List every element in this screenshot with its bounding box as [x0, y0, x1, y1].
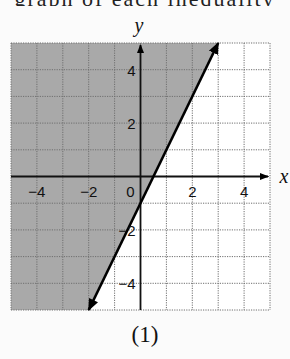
x-tick-label: −4	[28, 183, 45, 200]
x-tick-label: 2	[188, 183, 196, 200]
x-tick-label: 0	[126, 183, 134, 200]
x-axis-label: x	[279, 165, 289, 187]
y-axis-label: y	[133, 14, 144, 37]
figure-caption: (1)	[0, 322, 290, 348]
y-tick-label: −2	[118, 222, 135, 239]
inequality-graph: −4−202442−2−4xy	[0, 0, 290, 359]
y-tick-label: 4	[127, 62, 135, 79]
y-tick-label: −4	[118, 275, 135, 292]
x-tick-label: −2	[80, 183, 97, 200]
x-tick-label: 4	[240, 183, 248, 200]
y-tick-label: 2	[127, 115, 135, 132]
